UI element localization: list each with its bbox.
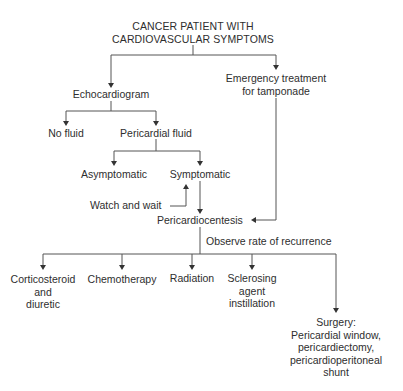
- surgery-line-2: Pericardial window,: [286, 329, 386, 342]
- pericardial-fluid-node: Pericardial fluid: [111, 127, 201, 140]
- watch-and-wait-node: Watch and wait: [90, 199, 161, 212]
- root-line-1: CANCER PATIENT WITH: [110, 20, 276, 33]
- no-fluid-node: No fluid: [36, 127, 96, 140]
- sclerosing-line-2: agent: [222, 285, 282, 298]
- sclerosing-line-1: Sclerosing: [222, 272, 282, 285]
- emergency-line-1: Emergency treatment: [221, 72, 331, 85]
- surgery-line-3: pericardiectomy,: [286, 341, 386, 354]
- asymptomatic-node: Asymptomatic: [76, 168, 152, 181]
- pericardiocentesis-node: Pericardiocentesis: [157, 214, 243, 227]
- corticosteroid-line-3: diuretic: [3, 298, 83, 311]
- observe-recurrence-label: Observe rate of recurrence: [206, 235, 331, 248]
- surgery-line-4: pericardioperitoneal: [286, 354, 386, 367]
- emergency-treatment-node: Emergency treatment for tamponade: [221, 72, 331, 97]
- emergency-line-2: for tamponade: [221, 85, 331, 98]
- root-line-2: CARDIOVASCULAR SYMPTOMS: [110, 33, 276, 46]
- chemotherapy-node: Chemotherapy: [86, 273, 158, 286]
- sclerosing-node: Sclerosing agent instillation: [222, 272, 282, 310]
- root-node: CANCER PATIENT WITH CARDIOVASCULAR SYMPT…: [110, 20, 276, 45]
- sclerosing-line-3: instillation: [222, 297, 282, 310]
- surgery-line-5: shunt: [286, 366, 386, 379]
- corticosteroid-line-1: Corticosteroid: [3, 273, 83, 286]
- echocardiogram-node: Echocardiogram: [66, 88, 156, 101]
- surgery-line-1: Surgery:: [286, 316, 386, 329]
- corticosteroid-line-2: and: [3, 286, 83, 299]
- corticosteroid-node: Corticosteroid and diuretic: [3, 273, 83, 311]
- surgery-node: Surgery: Pericardial window, pericardiec…: [286, 316, 386, 379]
- radiation-node: Radiation: [166, 272, 218, 285]
- symptomatic-node: Symptomatic: [165, 168, 235, 181]
